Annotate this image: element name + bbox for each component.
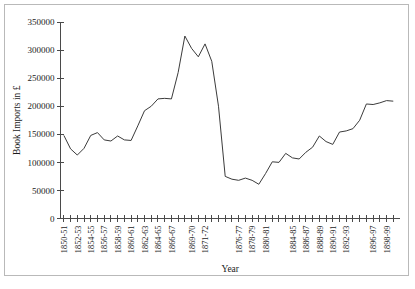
x-tick-label: 1850-51 <box>60 226 69 254</box>
x-tick-label: 1898-99 <box>383 226 392 254</box>
y-tick-label: 50000 <box>32 186 55 196</box>
x-tick-label: 1896-97 <box>369 226 378 254</box>
x-tick-label: 1860-61 <box>127 226 136 254</box>
line-chart: 0500001000001500002000002500003000003500… <box>0 0 415 289</box>
series-line-book-imports <box>64 36 393 184</box>
y-tick-label: 350000 <box>28 17 56 27</box>
x-tick-label: 1869-70 <box>188 226 197 254</box>
y-tick-label: 150000 <box>28 129 56 139</box>
x-tick-label: 1890-91 <box>329 226 338 254</box>
x-tick-label: 1886-87 <box>302 226 311 254</box>
x-tick-label: 1876-77 <box>235 226 244 254</box>
x-tick-label: 1862-63 <box>141 226 150 254</box>
x-axis: 1850-511852-531854-551856-571858-591860-… <box>60 215 400 253</box>
y-tick-label: 300000 <box>28 45 56 55</box>
x-tick-label: 1858-59 <box>114 226 123 254</box>
x-axis-title: Year <box>221 264 239 274</box>
x-tick-label: 1884-85 <box>289 226 298 254</box>
y-tick-label: 0 <box>50 214 55 224</box>
x-tick-label: 1864-65 <box>154 226 163 254</box>
x-tick-label: 1866-67 <box>168 226 177 254</box>
x-tick-label: 1892-93 <box>342 226 351 254</box>
x-tick-label: 1856-57 <box>100 226 109 254</box>
x-tick-label: 1888-89 <box>316 226 325 254</box>
chart-figure: 0500001000001500002000002500003000003500… <box>0 0 415 289</box>
x-tick-label: 1871-72 <box>201 226 210 254</box>
data-series-group <box>64 36 393 184</box>
x-tick-label: 1854-55 <box>87 226 96 254</box>
y-axis: 0500001000001500002000002500003000003500… <box>28 17 65 224</box>
x-tick-label: 1880-81 <box>262 226 271 254</box>
y-tick-label: 200000 <box>28 101 56 111</box>
y-tick-label: 100000 <box>28 158 56 168</box>
y-tick-label: 250000 <box>28 73 56 83</box>
y-axis-title: Book Imports in £ <box>12 85 22 155</box>
x-tick-label: 1852-53 <box>74 226 83 254</box>
x-tick-label: 1878-79 <box>248 226 257 254</box>
